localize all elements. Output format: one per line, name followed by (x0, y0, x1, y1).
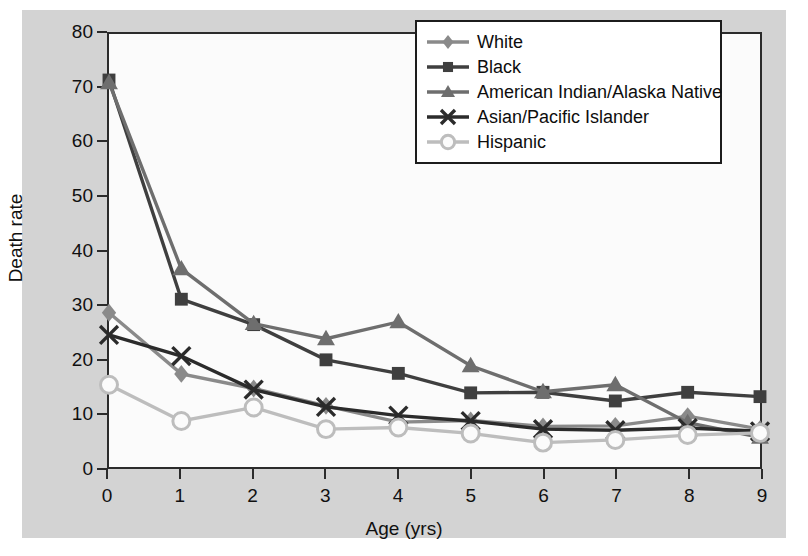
data-point (752, 424, 769, 441)
y-tick-mark (97, 304, 107, 306)
legend-marker-triangle-icon (426, 82, 470, 102)
data-point (462, 357, 480, 372)
y-tick-mark (97, 195, 107, 197)
x-tick-label: 5 (466, 485, 477, 507)
y-tick-label: 60 (51, 130, 93, 152)
series-line (109, 313, 760, 429)
legend-marker-diamond-icon (426, 32, 470, 52)
x-tick-mark (324, 469, 326, 479)
data-point (462, 425, 479, 442)
y-tick-label: 10 (51, 403, 93, 425)
y-tick-label: 70 (51, 76, 93, 98)
y-axis-label: Death rate (5, 194, 27, 283)
legend-label: Black (477, 58, 521, 76)
data-point (175, 293, 188, 306)
data-point (535, 434, 552, 451)
y-tick-label: 40 (51, 240, 93, 262)
legend-marker-x-icon (426, 107, 470, 127)
y-tick-label: 30 (51, 294, 93, 316)
data-point (679, 427, 696, 444)
figure-panel: Death rate Age (yrs) 01020304050607080 0… (22, 10, 786, 538)
legend-label: White (477, 33, 523, 51)
x-tick-mark (543, 469, 545, 479)
x-tick-label: 9 (757, 485, 768, 507)
data-point (172, 260, 190, 275)
x-tick-mark (397, 469, 399, 479)
y-tick-label: 20 (51, 349, 93, 371)
data-point (318, 421, 335, 438)
series-line (109, 385, 760, 443)
data-point (172, 347, 190, 365)
legend-item: American Indian/Alaska Native (426, 79, 711, 104)
legend: WhiteBlackAmerican Indian/Alaska NativeA… (415, 20, 722, 164)
data-point (607, 431, 624, 448)
x-tick-label: 0 (102, 485, 113, 507)
x-tick-label: 4 (393, 485, 404, 507)
x-tick-label: 7 (611, 485, 622, 507)
data-point (464, 386, 477, 399)
data-point (754, 390, 767, 403)
x-tick-label: 8 (684, 485, 695, 507)
data-point (100, 326, 118, 344)
legend-label: American Indian/Alaska Native (477, 83, 722, 101)
data-point (390, 419, 407, 436)
x-tick-mark (761, 469, 763, 479)
data-point (681, 386, 694, 399)
y-tick-mark (97, 413, 107, 415)
legend-item: Asian/Pacific Islander (426, 104, 711, 129)
x-tick-label: 6 (538, 485, 549, 507)
x-tick-label: 1 (174, 485, 185, 507)
y-tick-mark (97, 31, 107, 33)
y-tick-label: 50 (51, 185, 93, 207)
legend-marker-square-icon (426, 57, 470, 77)
x-tick-mark (688, 469, 690, 479)
x-tick-mark (615, 469, 617, 479)
data-point (609, 395, 622, 408)
data-point (173, 413, 190, 430)
y-tick-mark (97, 140, 107, 142)
y-tick-label: 80 (51, 21, 93, 43)
x-tick-mark (252, 469, 254, 479)
x-tick-mark (179, 469, 181, 479)
data-point (392, 367, 405, 380)
data-point (606, 376, 624, 391)
legend-label: Hispanic (477, 133, 546, 151)
data-point (101, 376, 118, 393)
x-tick-mark (106, 469, 108, 479)
x-axis-label: Age (yrs) (365, 518, 442, 540)
legend-marker-circle-open-icon (426, 132, 470, 152)
y-tick-label: 0 (51, 458, 93, 480)
x-tick-label: 2 (247, 485, 258, 507)
data-point (389, 313, 407, 328)
legend-item: Black (426, 54, 711, 79)
data-point (245, 399, 262, 416)
x-tick-label: 3 (320, 485, 331, 507)
legend-item: Hispanic (426, 129, 711, 154)
data-point (320, 353, 333, 366)
x-tick-mark (470, 469, 472, 479)
legend-item: White (426, 29, 711, 54)
y-tick-mark (97, 359, 107, 361)
y-tick-mark (97, 250, 107, 252)
legend-label: Asian/Pacific Islander (477, 108, 649, 126)
